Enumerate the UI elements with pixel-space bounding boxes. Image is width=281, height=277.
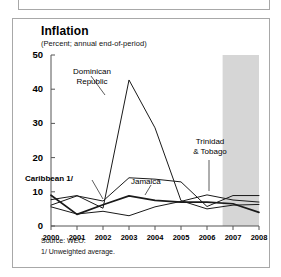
y-tick-label-30: 30: [21, 117, 43, 128]
series-label-dominican-republic-line2: Republic: [57, 77, 127, 87]
series-label-dominican-republic: Dominican Republic: [57, 67, 127, 87]
caribbean-leader-line: [92, 180, 103, 199]
y-tick-label-50: 50: [21, 49, 43, 60]
series-label-trinidad-tobago-line2: & Tobago: [179, 147, 241, 157]
y-tick-label-20: 20: [21, 152, 43, 163]
source-note: Source: WEO.: [41, 237, 86, 244]
plot-area: 50 40 30 20 10 0 2000 2001 2002 2003 200…: [13, 19, 269, 267]
series-label-dominican-republic-line1: Dominican: [57, 67, 127, 77]
series-label-trinidad-tobago: Trinidad & Tobago: [179, 137, 241, 157]
y-tick-label-0: 0: [21, 220, 43, 231]
y-tick-label-40: 40: [21, 83, 43, 94]
y-tick-label-10: 10: [21, 186, 43, 197]
series-label-trinidad-tobago-line1: Trinidad: [179, 137, 241, 147]
x-tick-label-2008: 2008: [244, 233, 274, 242]
unweighted-average-footnote: 1/ Unweighted average.: [41, 248, 115, 255]
previous-panel-frame-stub: [18, 0, 270, 10]
y-axis-tick-marks: [51, 55, 55, 226]
x-axis-tick-marks: [51, 226, 259, 230]
series-label-jamaica: Jamaica: [131, 177, 161, 187]
series-label-caribbean: Caribbean 1/: [25, 174, 73, 184]
inflation-figure-panel: Inflation (Percent; annual end-of-period…: [12, 18, 270, 268]
